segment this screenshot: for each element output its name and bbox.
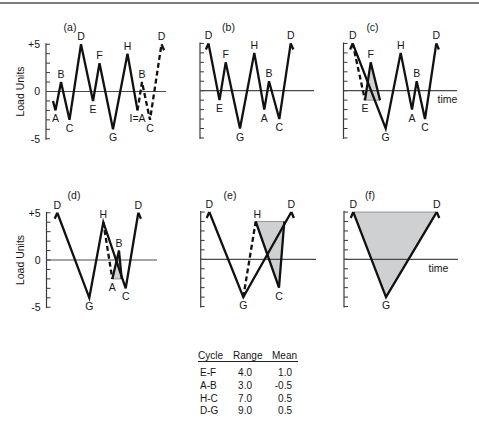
point-label: C: [421, 121, 429, 133]
load-trace-solid: [209, 43, 291, 128]
point-label: D: [288, 198, 296, 210]
x-axis-label: time: [429, 262, 449, 274]
point-label: D: [135, 199, 143, 211]
point-label: E: [89, 103, 96, 115]
panel-d: DGHABCD(d)+50-5Load Units: [14, 189, 157, 314]
point-label: C: [122, 290, 130, 302]
point-label: A: [52, 112, 59, 124]
cycle-shade: [353, 212, 436, 297]
point-label: G: [239, 299, 247, 311]
point-label: H: [124, 40, 132, 52]
point-label: G: [382, 131, 390, 143]
point-label: H: [397, 39, 405, 51]
point-label: F: [367, 48, 373, 60]
point-label: G: [382, 299, 390, 311]
point-label: G: [236, 131, 244, 143]
point-label: I=A: [129, 112, 145, 124]
y-axis-label: Load Units: [14, 66, 26, 116]
point-label: B: [115, 237, 122, 249]
point-label: D: [350, 198, 358, 210]
y-tick-label: 0: [34, 85, 40, 97]
point-label: D: [433, 29, 441, 41]
continuation-stub: [206, 43, 209, 49]
continuation-stub: [55, 213, 58, 219]
point-label: A: [109, 281, 116, 293]
x-axis-label: time: [438, 93, 458, 105]
load-trace-solid: [57, 213, 138, 298]
point-label: C: [66, 122, 74, 134]
y-tick-label: -5: [31, 301, 40, 313]
point-label: F: [222, 48, 228, 60]
panel-c: DEFGHABCD(c)time: [344, 21, 458, 143]
point-label: D: [349, 29, 357, 41]
continuation-stub: [350, 43, 353, 49]
point-label: D: [206, 198, 214, 210]
point-label: H: [253, 208, 261, 220]
point-label: G: [85, 300, 93, 312]
point-label: D: [287, 29, 295, 41]
continuation-stub: [437, 212, 440, 218]
panel-title: (e): [224, 189, 237, 201]
point-label: E: [216, 102, 223, 114]
point-label: A: [408, 112, 415, 124]
point-label: H: [100, 208, 108, 220]
panel-a: ABCDEFGHI=ABCD(a)+50-5Load Units: [14, 21, 166, 145]
point-label: C: [276, 121, 284, 133]
load-trace-dashed: [103, 222, 112, 279]
y-tick-label: -5: [31, 133, 40, 145]
panel-title: (f): [365, 189, 375, 201]
load-trace-solid: [53, 44, 138, 129]
point-label: D: [158, 30, 166, 42]
point-label: F: [96, 49, 102, 61]
panel-e: DGHCD(e): [201, 189, 316, 312]
point-label: H: [251, 39, 259, 51]
point-label: A: [261, 112, 268, 124]
point-label: B: [138, 68, 145, 80]
panel-f: DGD(f)time: [344, 189, 458, 312]
continuation-stub: [138, 213, 141, 219]
panel-title: (a): [64, 21, 77, 33]
panel-title: (b): [222, 21, 235, 33]
load-trace-dashed: [138, 44, 162, 120]
point-label: B: [57, 68, 64, 80]
continuation-stub: [351, 212, 354, 218]
y-axis-label: Load Units: [14, 235, 26, 285]
point-label: D: [54, 199, 62, 211]
continuation-stub: [291, 212, 294, 218]
point-label: B: [265, 67, 272, 79]
continuation-stub: [207, 212, 210, 218]
y-tick-label: 0: [35, 254, 41, 266]
point-label: B: [413, 67, 420, 79]
rainflow-figure: ABCDEFGHI=ABCD(a)+50-5Load UnitsDEFGHABC…: [0, 0, 479, 434]
y-tick-label: +5: [29, 207, 41, 219]
point-label: C: [275, 290, 283, 302]
panel-title: (d): [68, 189, 81, 201]
continuation-stub: [162, 44, 165, 50]
y-tick-label: +5: [28, 38, 40, 50]
point-label: G: [109, 131, 117, 143]
point-label: D: [433, 198, 441, 210]
point-label: C: [146, 122, 154, 134]
point-label: E: [361, 102, 368, 114]
point-label: D: [77, 30, 85, 42]
point-label: D: [205, 29, 213, 41]
panel-b: DEFGHABCD(b): [200, 21, 314, 143]
panel-title: (c): [366, 21, 378, 33]
load-trace-solid: [353, 43, 437, 128]
